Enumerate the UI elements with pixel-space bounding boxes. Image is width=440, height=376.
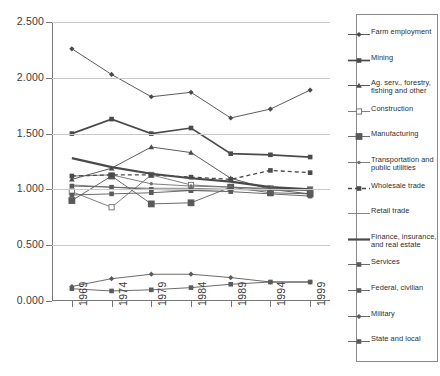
- legend-item[interactable]: Services: [347, 257, 439, 271]
- data-point-marker: [357, 58, 362, 63]
- data-point-marker: [356, 133, 363, 140]
- y-axis-tick-label: 2.000: [0, 71, 44, 83]
- y-axis-tick-label: 1.500: [0, 127, 44, 139]
- chart-legend: Farm employmentMiningAg. serv., forestry…: [356, 14, 438, 362]
- data-point-marker: [109, 72, 114, 77]
- data-point-marker: [109, 192, 114, 197]
- legend-item[interactable]: Finance, insurance, and real estate: [347, 232, 439, 246]
- legend-label: Finance, insurance, and real estate: [371, 232, 439, 249]
- legend-label: Wholesale trade: [371, 181, 425, 190]
- x-axis-tick-label: 1984: [196, 281, 208, 306]
- legend-item[interactable]: Federal, civilian: [347, 283, 439, 297]
- data-point-marker: [70, 286, 75, 291]
- data-point-marker: [356, 32, 361, 37]
- legend-label: Retail trade: [371, 206, 409, 215]
- data-point-marker: [268, 153, 273, 158]
- legend-label: Transportation and public utilities: [371, 155, 439, 172]
- x-axis-tick-mark: [72, 301, 73, 307]
- data-point-marker: [308, 194, 313, 199]
- legend-marker-icon: [347, 232, 371, 245]
- legend-marker-icon: [347, 309, 371, 322]
- data-point-marker: [228, 275, 233, 280]
- x-axis-tick-label: 1969: [77, 281, 89, 306]
- data-point-marker: [356, 109, 361, 114]
- data-point-marker: [149, 94, 154, 99]
- data-point-marker: [357, 161, 360, 164]
- legend-label: Military: [371, 309, 395, 318]
- legend-label: Federal, civilian: [371, 283, 423, 292]
- legend-item[interactable]: Ag. serv., forestry, fishing and other: [347, 78, 439, 92]
- y-axis-tick-mark: [46, 189, 52, 190]
- data-point-marker: [69, 46, 74, 51]
- gridline: [52, 245, 330, 246]
- legend-marker-icon: [347, 283, 371, 296]
- legend-marker-icon: [347, 104, 371, 117]
- x-axis-tick-mark: [270, 301, 271, 307]
- data-point-marker: [268, 106, 273, 111]
- data-point-marker: [70, 184, 75, 189]
- data-point-marker: [189, 184, 192, 187]
- legend-marker-icon: [347, 334, 371, 347]
- gridline: [52, 189, 330, 190]
- data-point-marker: [357, 263, 362, 268]
- series-farm-employment: [69, 46, 312, 120]
- legend-item[interactable]: Farm employment: [347, 27, 439, 41]
- legend-marker-icon: [347, 78, 371, 91]
- x-axis-tick-label: 1994: [275, 281, 287, 306]
- x-axis-tick-label: 1989: [236, 281, 248, 306]
- data-point-marker: [308, 170, 313, 175]
- data-point-marker: [150, 182, 153, 185]
- legend-item[interactable]: Mining: [347, 53, 439, 67]
- x-axis-tick-label: 1979: [156, 281, 168, 306]
- data-point-marker: [228, 151, 233, 156]
- legend-marker-icon: [347, 129, 371, 142]
- data-point-marker: [188, 199, 195, 206]
- data-point-marker: [70, 193, 75, 198]
- legend-marker-icon: [347, 53, 371, 66]
- data-point-marker: [357, 339, 362, 344]
- data-point-marker: [228, 115, 233, 120]
- legend-item[interactable]: Wholesale trade: [347, 181, 439, 195]
- data-point-marker: [357, 186, 362, 191]
- y-axis-tick-label: 0.000: [0, 294, 44, 306]
- legend-item[interactable]: Military: [347, 309, 439, 323]
- data-point-marker: [148, 201, 155, 208]
- data-point-marker: [149, 288, 154, 293]
- data-point-marker: [268, 280, 273, 285]
- data-point-marker: [268, 168, 273, 173]
- data-point-marker: [70, 174, 75, 179]
- data-point-marker: [109, 289, 114, 294]
- legend-item[interactable]: State and local: [347, 334, 439, 348]
- legend-item[interactable]: Transportation and public utilities: [347, 155, 439, 169]
- legend-marker-icon: [347, 181, 371, 194]
- y-axis-tick-mark: [46, 245, 52, 246]
- y-axis-tick-label: 2.500: [0, 15, 44, 27]
- data-point-marker: [68, 197, 75, 204]
- data-point-marker: [188, 272, 193, 277]
- data-point-marker: [268, 192, 273, 197]
- y-axis-tick-label: 0.500: [0, 238, 44, 250]
- y-axis-tick-mark: [46, 134, 52, 135]
- data-point-marker: [188, 90, 193, 95]
- x-axis-tick-mark: [151, 301, 152, 307]
- legend-label: Mining: [371, 53, 393, 62]
- data-point-marker: [189, 126, 194, 131]
- legend-item[interactable]: Construction: [347, 104, 439, 118]
- data-point-marker: [357, 288, 362, 293]
- data-point-marker: [308, 87, 313, 92]
- legend-item[interactable]: Manufacturing: [347, 129, 439, 143]
- x-axis-tick-mark: [231, 301, 232, 307]
- legend-label: State and local: [371, 334, 421, 343]
- y-axis-tick-mark: [46, 22, 52, 23]
- legend-marker-icon: [347, 27, 371, 40]
- data-point-marker: [308, 155, 313, 160]
- x-axis-tick-mark: [310, 301, 311, 307]
- data-point-marker: [109, 205, 114, 210]
- data-point-marker: [356, 313, 361, 318]
- legend-label: Services: [371, 257, 400, 266]
- y-axis-tick-label: 1.000: [0, 182, 44, 194]
- legend-item[interactable]: Retail trade: [347, 206, 439, 220]
- legend-label: Farm employment: [371, 27, 431, 36]
- legend-label: Construction: [371, 104, 413, 113]
- legend-marker-icon: [347, 206, 371, 219]
